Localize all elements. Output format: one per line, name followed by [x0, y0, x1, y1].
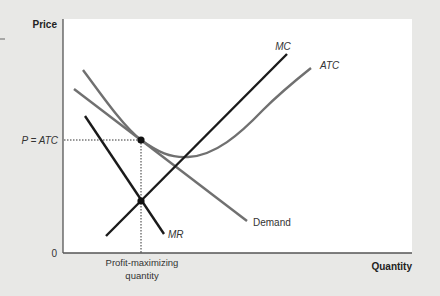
y-axis-label: Price — [33, 19, 58, 30]
monopolistic-competition-chart: Price Quantity 0 P = ATC MC ATC Demand M… — [0, 0, 440, 296]
demand-label: Demand — [253, 217, 291, 228]
atc-label: ATC — [319, 60, 340, 71]
tangency-point — [137, 136, 144, 143]
mr-label: MR — [168, 229, 184, 240]
pmq-label-line1: Profit-maximizing — [106, 257, 179, 268]
x-axis-label: Quantity — [371, 261, 412, 272]
pmq-label-line2: quantity — [125, 270, 159, 281]
origin-label: 0 — [51, 248, 57, 259]
mc-label: MC — [275, 41, 291, 52]
p-atc-label: P = ATC — [21, 135, 58, 146]
plot-panel — [63, 19, 412, 253]
mr-mc-intersection-point — [137, 197, 144, 204]
